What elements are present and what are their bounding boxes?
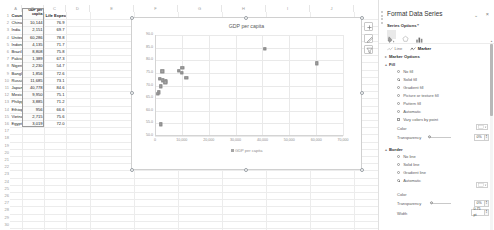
cell-A16[interactable]: Egypt <box>10 120 22 127</box>
cell-A2[interactable]: China <box>10 19 22 26</box>
chevron-down-icon[interactable]: ▾ <box>417 23 419 27</box>
fill-option-pattern-fill[interactable]: Pattern fill <box>397 101 421 106</box>
row-header-3[interactable]: 3 <box>0 26 10 33</box>
cell-B9[interactable]: 1,856 <box>22 70 44 77</box>
cell-B15[interactable]: 2,715 <box>22 113 44 120</box>
row-header-6[interactable]: 6 <box>0 48 10 55</box>
border-group-header[interactable]: ▴ Border <box>385 147 403 152</box>
border-caret-icon[interactable]: ▴ <box>385 148 387 152</box>
chart-side-buttons[interactable] <box>364 22 374 57</box>
resize-handle-middle-left[interactable] <box>130 91 134 95</box>
cell-A9[interactable]: Bangladesh <box>10 70 22 77</box>
fill-transparency-slider-track[interactable] <box>429 137 451 138</box>
toggle-marker[interactable]: Marker <box>410 46 431 51</box>
resize-handle-top-right[interactable] <box>360 16 364 20</box>
cell-C2[interactable]: 76.9 <box>44 19 66 26</box>
fill-option-no-fill[interactable]: No fill <box>397 69 413 74</box>
cell-C14[interactable]: 66.6 <box>44 106 66 113</box>
row-header-17[interactable]: 17 <box>0 127 10 134</box>
plot-area[interactable]: 90.085.080.075.070.065.060.055.050.0 010… <box>155 35 343 136</box>
row-header-14[interactable]: 14 <box>0 106 10 113</box>
cell-B6[interactable]: 8,808 <box>22 48 44 55</box>
row-header-9[interactable]: 9 <box>0 70 10 77</box>
row-header-5[interactable]: 5 <box>0 41 10 48</box>
radio-button[interactable] <box>397 94 400 97</box>
tab-effects[interactable] <box>401 30 410 39</box>
column-header-e[interactable]: E <box>90 5 134 12</box>
row-header-12[interactable]: 12 <box>0 91 10 98</box>
cell-C10[interactable]: 73.1 <box>44 77 66 84</box>
cell-B2[interactable]: 10,144 <box>22 19 44 26</box>
radio-button[interactable] <box>397 86 400 89</box>
fill-transparency-value[interactable]: 0% <box>474 134 485 141</box>
row-header-11[interactable]: 11 <box>0 84 10 91</box>
data-point[interactable] <box>181 66 184 69</box>
cell-C9[interactable]: 72.6 <box>44 70 66 77</box>
border-option-solid-line[interactable]: Solid line <box>397 162 419 167</box>
data-point[interactable] <box>263 47 266 50</box>
cell-B11[interactable]: 40,778 <box>22 84 44 91</box>
border-width-value[interactable]: 0.75 pt <box>471 209 485 216</box>
data-point[interactable] <box>180 71 183 74</box>
cell-C6[interactable]: 75.8 <box>44 48 66 55</box>
row-header-31[interactable]: 31 <box>0 228 10 230</box>
cell-A1[interactable]: Country <box>10 12 22 19</box>
x-axis-title[interactable]: GDP per capita <box>132 148 361 153</box>
checkbox-box[interactable] <box>397 118 400 121</box>
data-point[interactable] <box>156 92 159 95</box>
row-header-10[interactable]: 10 <box>0 77 10 84</box>
cell-C5[interactable]: 71.7 <box>44 41 66 48</box>
radio-button[interactable] <box>397 179 400 182</box>
cell-C1[interactable]: Life Expectancy <box>44 12 66 19</box>
line-marker-toggle[interactable]: Line Marker <box>387 46 431 51</box>
cell-B16[interactable]: 3,019 <box>22 120 44 127</box>
pane-options-dropdown-icon[interactable]: ⌄ <box>474 12 478 18</box>
cell-C12[interactable]: 75.1 <box>44 91 66 98</box>
cell-A11[interactable]: Japan <box>10 84 22 91</box>
row-header-27[interactable]: 27 <box>0 199 10 206</box>
row-header-30[interactable]: 30 <box>0 221 10 228</box>
cell-A4[interactable]: United States <box>10 34 22 41</box>
border-color-picker[interactable] <box>476 182 488 188</box>
cell-B3[interactable]: 2,151 <box>22 26 44 33</box>
fill-option-solid-fill[interactable]: Solid fill <box>397 77 417 82</box>
cell-C4[interactable]: 78.8 <box>44 34 66 41</box>
pane-scrollbar-thumb[interactable] <box>490 44 493 116</box>
pane-drag-grip[interactable] <box>381 11 383 23</box>
row-header-13[interactable]: 13 <box>0 98 10 105</box>
row-header-16[interactable]: 16 <box>0 120 10 127</box>
data-point[interactable] <box>161 70 164 73</box>
fill-transparency-spinner[interactable]: ▲▼ <box>485 134 489 141</box>
vary-colors-by-point-checkbox[interactable]: Vary colors by point <box>397 117 438 122</box>
cell-A3[interactable]: India <box>10 26 22 33</box>
cell-C3[interactable]: 69.7 <box>44 26 66 33</box>
resize-handle-top-left[interactable] <box>130 16 134 20</box>
radio-button[interactable] <box>397 110 400 113</box>
radio-button[interactable] <box>397 102 400 105</box>
fill-option-gradient-fill[interactable]: Gradient fill <box>397 85 423 90</box>
radio-button[interactable] <box>397 163 400 166</box>
chart-styles-icon[interactable] <box>364 34 373 43</box>
row-header-8[interactable]: 8 <box>0 62 10 69</box>
pane-tab-strip[interactable] <box>387 30 424 39</box>
data-point[interactable] <box>159 85 162 88</box>
border-width-spinner[interactable]: ▲▼ <box>485 209 489 216</box>
column-header-c[interactable]: C <box>44 5 66 12</box>
toggle-line[interactable]: Line <box>387 46 402 51</box>
row-header-20[interactable]: 20 <box>0 149 10 156</box>
cell-B8[interactable]: 2,230 <box>22 62 44 69</box>
cell-C15[interactable]: 75.6 <box>44 113 66 120</box>
cell-C8[interactable]: 54.7 <box>44 62 66 69</box>
resize-handle-top-center[interactable] <box>244 16 248 20</box>
row-header-21[interactable]: 21 <box>0 156 10 163</box>
cell-C7[interactable]: 67.3 <box>44 55 66 62</box>
cell-A8[interactable]: Nigeria <box>10 62 22 69</box>
row-header-25[interactable]: 25 <box>0 185 10 192</box>
data-point[interactable] <box>159 122 162 125</box>
row-header-15[interactable]: 15 <box>0 113 10 120</box>
cell-A15[interactable]: Vietnam <box>10 113 22 120</box>
cell-B4[interactable]: 60,286 <box>22 34 44 41</box>
radio-button[interactable] <box>397 155 400 158</box>
chart-filters-icon[interactable] <box>364 45 373 54</box>
chart-title[interactable]: GDP per capita <box>132 23 361 29</box>
